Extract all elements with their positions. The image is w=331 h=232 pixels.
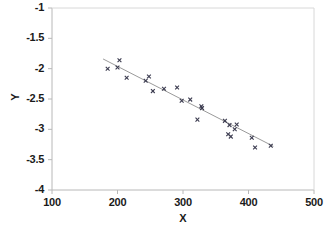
data-point-marker bbox=[144, 79, 148, 83]
y-tick-label: -1.5 bbox=[0, 31, 44, 43]
y-axis-ticks bbox=[48, 8, 52, 190]
y-tick-label: -3.5 bbox=[0, 153, 44, 165]
data-point-marker bbox=[151, 89, 155, 93]
data-points bbox=[106, 58, 273, 149]
x-tick-label: 100 bbox=[32, 196, 72, 208]
data-point-marker bbox=[229, 135, 233, 139]
data-point-marker bbox=[253, 146, 257, 150]
data-point-marker bbox=[235, 123, 239, 127]
y-tick-label: -1 bbox=[0, 1, 44, 13]
data-point-marker bbox=[250, 136, 254, 140]
data-point-marker bbox=[233, 127, 237, 131]
y-tick-label: -4 bbox=[0, 183, 44, 195]
y-axis-title: Y bbox=[9, 87, 21, 107]
x-axis-title: X bbox=[163, 212, 203, 224]
data-point-marker bbox=[125, 76, 129, 80]
scatter-chart-figure: -1-1.5-2-2.5-3-3.5-4 100200300400500 X Y bbox=[0, 0, 331, 232]
x-tick-label: 200 bbox=[98, 196, 138, 208]
y-tick-label: -3 bbox=[0, 122, 44, 134]
y-tick-label: -2 bbox=[0, 62, 44, 74]
y-tick-label: -2.5 bbox=[0, 92, 44, 104]
data-point-marker bbox=[106, 67, 110, 71]
regression-line bbox=[103, 59, 273, 146]
data-point-marker bbox=[188, 98, 192, 102]
data-point-marker bbox=[147, 75, 151, 79]
x-tick-label: 300 bbox=[163, 196, 203, 208]
x-axis-ticks bbox=[52, 190, 314, 194]
data-point-marker bbox=[118, 58, 122, 62]
trend-line bbox=[103, 59, 273, 146]
x-tick-label: 400 bbox=[229, 196, 269, 208]
data-point-marker bbox=[196, 118, 200, 122]
data-point-marker bbox=[175, 86, 179, 90]
x-tick-label: 500 bbox=[294, 196, 331, 208]
